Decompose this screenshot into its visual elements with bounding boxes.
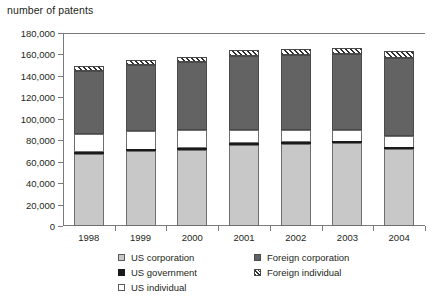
bar-segment-us-corp	[177, 150, 207, 226]
bar-segment-us-corp	[126, 151, 156, 226]
y-axis-tick-label: 160,000	[0, 49, 55, 60]
legend-item-label: US government	[131, 267, 197, 278]
bar-segment-us-ind	[384, 136, 414, 148]
bar-segment-us-corp	[384, 149, 414, 226]
bar-2002	[281, 49, 311, 226]
legend-column-right: Foreign corporationForeign individual	[254, 250, 349, 280]
legend-item-label: Foreign corporation	[267, 252, 349, 263]
x-axis-tick-label: 2002	[285, 232, 306, 243]
x-axis-tick-mark	[322, 226, 323, 231]
bar-segment-us-corp	[332, 143, 362, 226]
bar-1998	[74, 66, 104, 226]
legend-item-us-corp[interactable]: US corporation	[118, 250, 197, 264]
patents-stacked-bar-chart: number of patents 180,000160,000140,0001…	[0, 0, 448, 300]
bar-2004	[384, 51, 414, 226]
y-axis-tick-label: 80,000	[0, 135, 55, 146]
y-axis-tick-label: 180,000	[0, 28, 55, 39]
x-axis-tick-mark	[270, 226, 271, 231]
bar-segment-for-corp	[229, 56, 259, 130]
legend-item-us-gov[interactable]: US government	[118, 265, 197, 279]
legend-swatch-for-ind-icon	[254, 269, 261, 276]
y-axis-tick-label: 40,000	[0, 178, 55, 189]
legend-item-for-ind[interactable]: Foreign individual	[254, 265, 349, 279]
legend-swatch-us-gov-icon	[118, 269, 125, 276]
bar-segment-us-ind	[332, 130, 362, 142]
bar-segment-for-corp	[177, 62, 207, 130]
legend-item-label: Foreign individual	[267, 267, 341, 278]
x-axis-tick-label: 2000	[182, 232, 203, 243]
bar-segment-us-ind	[229, 130, 259, 143]
bar-1999	[126, 60, 156, 226]
x-axis-tick-label: 2004	[389, 232, 410, 243]
y-axis-tick-label: 60,000	[0, 156, 55, 167]
bar-segment-us-ind	[177, 130, 207, 148]
x-axis-tick-label: 1998	[78, 232, 99, 243]
x-axis-tick-mark	[425, 226, 426, 231]
y-axis-tick-label: 120,000	[0, 92, 55, 103]
legend-swatch-us-corp-icon	[118, 254, 125, 261]
y-axis-tick-mark	[58, 226, 63, 227]
chart-legend: US corporationUS governmentUS individual…	[118, 250, 418, 296]
bar-segment-for-corp	[332, 54, 362, 129]
bar-segment-for-corp	[74, 71, 104, 134]
legend-item-label: US corporation	[131, 252, 194, 263]
x-axis-tick-label: 2003	[337, 232, 358, 243]
legend-swatch-us-ind-icon	[118, 284, 125, 291]
x-axis-tick-mark	[115, 226, 116, 231]
bar-2000	[177, 57, 207, 226]
bar-2001	[229, 50, 259, 226]
legend-item-label: US individual	[131, 282, 186, 293]
x-axis-tick-mark	[373, 226, 374, 231]
bar-segment-us-ind	[126, 131, 156, 150]
x-axis-tick-mark	[218, 226, 219, 231]
legend-item-us-ind[interactable]: US individual	[118, 280, 197, 294]
bar-segment-for-corp	[384, 58, 414, 136]
bar-segment-for-corp	[126, 65, 156, 131]
x-axis-tick-mark	[166, 226, 167, 231]
x-axis-tick-label: 2001	[233, 232, 254, 243]
bar-segment-us-ind	[74, 134, 104, 152]
y-axis-tick-label: 140,000	[0, 70, 55, 81]
bar-segment-us-corp	[281, 144, 311, 226]
y-axis-tick-label: 20,000	[0, 199, 55, 210]
legend-item-for-corp[interactable]: Foreign corporation	[254, 250, 349, 264]
y-axis-tick-label: 0	[0, 221, 55, 232]
bar-segment-us-corp	[74, 154, 104, 226]
legend-column-left: US corporationUS governmentUS individual	[118, 250, 197, 295]
y-axis-tick-label: 100,000	[0, 113, 55, 124]
bar-segment-us-ind	[281, 130, 311, 143]
bar-2003	[332, 48, 362, 226]
x-axis-tick-label: 1999	[130, 232, 151, 243]
chart-title: number of patents	[7, 4, 93, 16]
legend-swatch-for-corp-icon	[254, 254, 261, 261]
bar-segment-for-corp	[281, 55, 311, 130]
bar-segment-us-corp	[229, 145, 259, 226]
